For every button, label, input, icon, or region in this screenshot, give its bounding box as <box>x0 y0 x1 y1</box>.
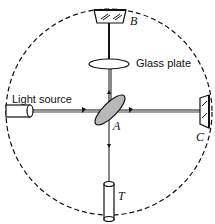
label-light-source: Light source <box>12 94 72 105</box>
light-source <box>6 105 33 117</box>
telescope-t <box>104 182 114 222</box>
label-telescope-t: T <box>118 190 125 202</box>
arrow-icon <box>107 90 111 94</box>
interferometer-diagram <box>0 0 215 224</box>
label-splitter-a: A <box>113 120 120 132</box>
label-mirror-b: B <box>130 15 137 27</box>
label-glass-plate: Glass plate <box>136 58 191 69</box>
mirror-c <box>200 95 209 128</box>
label-mirror-c: C <box>196 131 204 143</box>
glass-plate <box>89 59 129 69</box>
arrow-icon <box>107 144 111 148</box>
mirror-b <box>94 10 126 23</box>
